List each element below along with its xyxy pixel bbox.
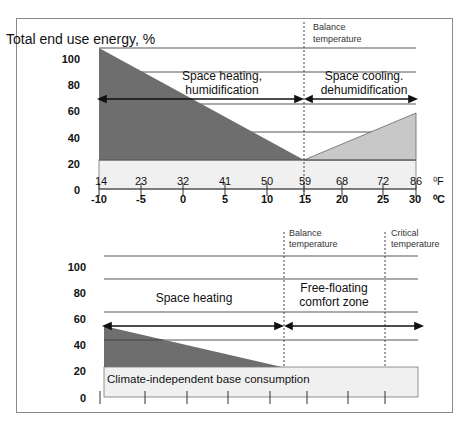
celsius-unit: ⁰C	[433, 193, 445, 205]
critical-label-2: temperature	[391, 239, 440, 249]
top-cooling-label-1: Space cooling.	[325, 69, 404, 83]
bottom-ytick-100: 100	[68, 261, 86, 273]
bottom-balance-label-1: Balance	[289, 228, 322, 238]
top-ytick-100: 100	[62, 53, 80, 65]
free-floating-label-2: comfort zone	[299, 295, 369, 309]
bottom-ytick-60: 60	[74, 313, 86, 325]
top-heating-label-2: humidification	[185, 83, 258, 97]
svg-text:59: 59	[299, 175, 311, 187]
bottom-ytick-40: 40	[74, 339, 86, 351]
top-balance-label-1: Balance	[313, 22, 346, 32]
svg-text:23: 23	[135, 175, 147, 187]
bottom-gridlines	[104, 256, 418, 340]
bottom-heating-area	[104, 326, 282, 367]
svg-text:5: 5	[222, 193, 228, 205]
svg-text:72: 72	[377, 175, 389, 187]
svg-text:20: 20	[336, 193, 348, 205]
svg-text:68: 68	[336, 175, 348, 187]
top-ytick-0: 0	[74, 184, 80, 196]
svg-text:0: 0	[180, 193, 186, 205]
bottom-chart: Climate-independent base consumption Bal…	[68, 228, 440, 404]
bottom-ytick-20: 20	[74, 365, 86, 377]
critical-label-1: Critical	[391, 228, 419, 238]
top-cooling-area	[304, 113, 416, 160]
top-ytick-40: 40	[68, 132, 80, 144]
top-x-celsius-labels: -10 -5 0 5 10 15 20 25 30 ⁰C	[91, 193, 445, 205]
svg-text:86: 86	[410, 175, 422, 187]
top-ytick-80: 80	[68, 79, 80, 91]
top-ytick-20: 20	[68, 158, 80, 170]
svg-text:-5: -5	[136, 193, 146, 205]
svg-text:25: 25	[377, 193, 389, 205]
svg-text:50: 50	[261, 175, 273, 187]
figure-svg: Total end use energy, % Balance temperat…	[0, 0, 465, 422]
base-consumption-label: Climate-independent base consumption	[107, 373, 310, 385]
bottom-ytick-0: 0	[80, 392, 86, 404]
svg-text:30: 30	[409, 193, 421, 205]
bottom-arrows	[104, 323, 422, 329]
bottom-heating-label: Space heating	[156, 291, 233, 305]
top-heating-label-1: Space heating,	[182, 69, 262, 83]
bottom-balance-label-2: temperature	[289, 239, 338, 249]
top-cooling-label-2: dehumidification	[321, 83, 408, 97]
fahrenheit-unit: ⁰F	[433, 175, 444, 187]
svg-text:10: 10	[261, 193, 273, 205]
svg-text:-10: -10	[91, 193, 107, 205]
top-chart: Total end use energy, % Balance temperat…	[6, 22, 445, 205]
bottom-ytick-80: 80	[74, 287, 86, 299]
top-y-axis-title: Total end use energy, %	[6, 31, 155, 47]
svg-text:15: 15	[299, 193, 311, 205]
svg-text:14: 14	[95, 175, 107, 187]
top-ytick-60: 60	[68, 105, 80, 117]
free-floating-label-1: Free-floating	[300, 281, 367, 295]
top-balance-label-2: temperature	[313, 34, 362, 44]
svg-text:32: 32	[177, 175, 189, 187]
svg-text:41: 41	[219, 175, 231, 187]
